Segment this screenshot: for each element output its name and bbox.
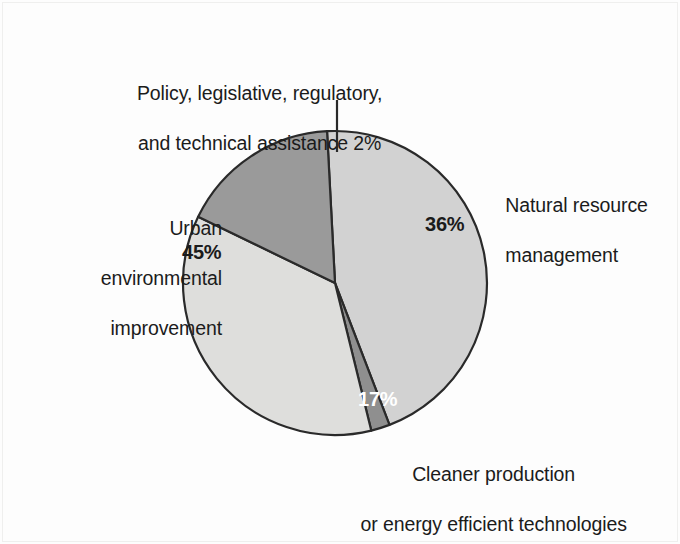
label-natural-line-1: Natural resource bbox=[505, 194, 648, 216]
label-policy-legislative: Policy, legislative, regulatory, and tec… bbox=[104, 56, 394, 181]
value-label-natural-resource-management: 36% bbox=[425, 213, 464, 236]
label-policy-line-1: Policy, legislative, regulatory, bbox=[137, 82, 382, 104]
label-urban-line-2: environmental bbox=[101, 267, 222, 289]
label-policy-line-2: and technical assistance 2% bbox=[138, 132, 381, 154]
label-natural-line-2: management bbox=[505, 244, 618, 266]
label-urban-environmental-improvement: Urban environmental improvement bbox=[22, 191, 222, 366]
label-cleaner-line-2: or energy efficient technologies bbox=[360, 513, 626, 535]
label-cleaner-line-1: Cleaner production bbox=[412, 463, 575, 485]
label-urban-line-1: Urban bbox=[169, 217, 222, 239]
label-cleaner-production-technologies: Cleaner production or energy efficient t… bbox=[297, 437, 669, 544]
label-natural-resource-management: Natural resource management bbox=[484, 168, 680, 293]
value-label-urban-environmental-improvement: 45% bbox=[182, 241, 221, 264]
pie-chart-figure: Policy, legislative, regulatory, and tec… bbox=[0, 0, 680, 544]
value-label-cleaner-production-technologies: 17% bbox=[358, 388, 397, 411]
label-urban-line-3: improvement bbox=[110, 317, 222, 339]
